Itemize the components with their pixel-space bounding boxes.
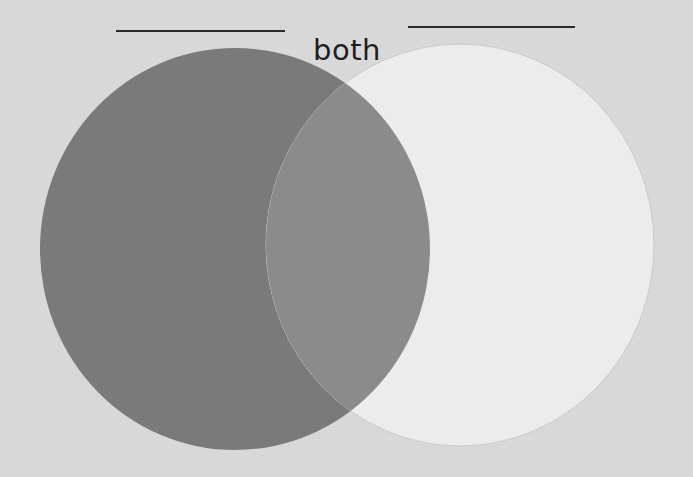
right-set-title-blank [408,26,575,28]
venn-diagram: both [0,0,693,477]
intersection-label: both [313,36,381,65]
venn-svg [0,0,693,477]
left-set-title-blank [116,30,285,32]
